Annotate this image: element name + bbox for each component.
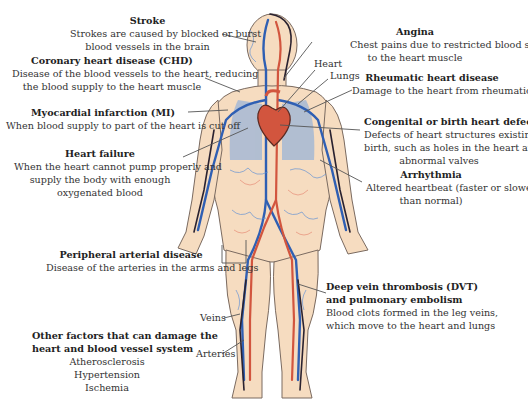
other-factors-title: Other factors that can damage the: [32, 329, 182, 342]
condition-description: Disease of the blood vessels to the hear…: [12, 67, 212, 80]
other-factor-item: Ischemia: [32, 381, 182, 394]
condition-arrhythmia: Arrhythmia Altered heartbeat (faster or …: [366, 168, 496, 207]
condition-title: Stroke: [70, 14, 225, 27]
condition-title: Heart failure: [14, 147, 186, 160]
condition-title: Angina: [350, 25, 480, 38]
anatomy-label-veins: Veins: [200, 312, 226, 324]
condition-description: Disease of the arteries in the arms and …: [46, 261, 216, 274]
condition-description: oxygenated blood: [14, 186, 186, 199]
condition-description: birth, such as holes in the heart and: [364, 141, 514, 154]
condition-description: Altered heartbeat (faster or slower: [366, 181, 496, 194]
condition-description: than normal): [366, 194, 496, 207]
condition-rheumatic: Rheumatic heart disease Damage to the he…: [352, 71, 512, 97]
condition-description: the blood supply to the heart muscle: [12, 80, 212, 93]
condition-description: abnormal valves: [364, 154, 514, 167]
condition-description: blood vessels in the brain: [70, 40, 225, 53]
condition-description: Damage to the heart from rheumatic fever: [352, 84, 512, 97]
condition-title: Deep vein thrombosis (DVT): [326, 280, 456, 293]
condition-description: Strokes are caused by blocked or burst: [70, 27, 225, 40]
condition-pad: Peripheral arterial disease Disease of t…: [46, 248, 216, 274]
condition-description: When blood supply to part of the heart i…: [6, 119, 200, 132]
cardiovascular-diagram: Stroke Strokes are caused by blocked or …: [0, 0, 528, 410]
condition-mi: Myocardial infarction (MI) When blood su…: [6, 106, 200, 132]
condition-title: and pulmonary embolism: [326, 293, 456, 306]
condition-description: Defects of heart structures existing at: [364, 128, 514, 141]
condition-dvt: Deep vein thrombosis (DVT) and pulmonary…: [326, 280, 456, 332]
condition-title: Congenital or birth heart defects: [364, 115, 514, 128]
condition-title: Arrhythmia: [366, 168, 496, 181]
anatomy-label-arteries: Arteries: [196, 348, 235, 360]
condition-chd: Coronary heart disease (CHD) Disease of …: [12, 54, 212, 93]
anatomy-label-heart: Heart: [314, 58, 342, 70]
condition-description: When the heart cannot pump properly and: [14, 160, 186, 173]
condition-heart-failure: Heart failure When the heart cannot pump…: [14, 147, 186, 199]
condition-description: which move to the heart and lungs: [326, 319, 456, 332]
other-factors: Other factors that can damage the heart …: [32, 329, 182, 394]
condition-description: supply the body with enough: [14, 173, 186, 186]
condition-angina: Angina Chest pains due to restricted blo…: [350, 25, 480, 64]
condition-description: to the heart muscle: [350, 51, 480, 64]
condition-description: Blood clots formed in the leg veins,: [326, 306, 456, 319]
condition-title: Coronary heart disease (CHD): [12, 54, 212, 67]
other-factors-title: heart and blood vessel system: [32, 342, 182, 355]
condition-congenital: Congenital or birth heart defects Defect…: [364, 115, 514, 167]
condition-title: Rheumatic heart disease: [352, 71, 512, 84]
anatomy-label-lungs: Lungs: [330, 70, 360, 82]
other-factor-item: Hypertension: [32, 368, 182, 381]
other-factor-item: Atherosclerosis: [32, 355, 182, 368]
condition-description: Chest pains due to restricted blood supp…: [350, 38, 480, 51]
condition-title: Myocardial infarction (MI): [6, 106, 200, 119]
condition-title: Peripheral arterial disease: [46, 248, 216, 261]
condition-stroke: Stroke Strokes are caused by blocked or …: [70, 14, 225, 53]
